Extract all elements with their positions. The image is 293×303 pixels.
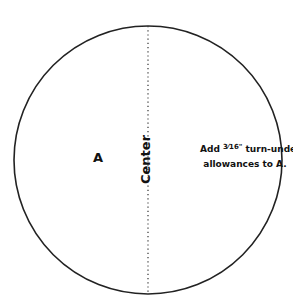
note-fraction: 3⁄16 [223, 143, 239, 151]
note-prefix: Add [200, 144, 223, 154]
center-label: Center [138, 135, 153, 184]
note-suffix: turn-under [242, 144, 293, 154]
note-line-1: Add 3⁄16" turn-under [200, 140, 290, 157]
note-line-2: allowances to A. [200, 157, 290, 172]
allowance-note: Add 3⁄16" turn-under allowances to A. [200, 140, 290, 172]
piece-label: A [93, 150, 103, 165]
